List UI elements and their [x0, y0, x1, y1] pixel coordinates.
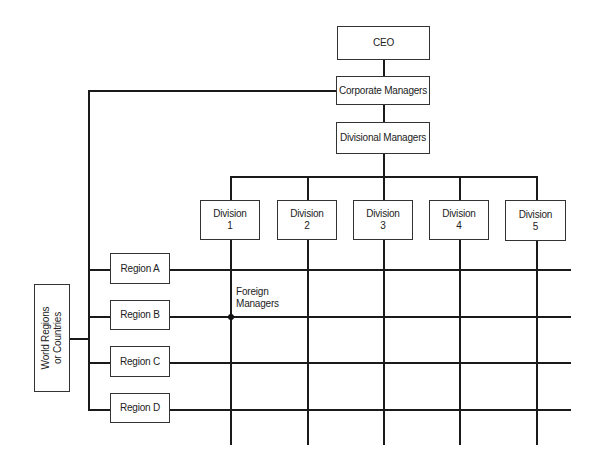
ceo-label: CEO — [373, 37, 394, 49]
corporate-regions-connector — [88, 90, 336, 92]
region-c-label: Region C — [120, 356, 160, 368]
divisional-managers-label: Divisional Managers — [340, 132, 426, 144]
division-5-drop — [536, 176, 538, 200]
division-2-number: 2 — [304, 220, 309, 232]
region-c-row — [170, 362, 571, 364]
division-2-box: Division 2 — [277, 200, 337, 240]
division-4-drop — [459, 176, 461, 200]
division-3-label: Division — [366, 208, 399, 220]
division-4-box: Division 4 — [429, 200, 489, 240]
division-2-label: Division — [290, 208, 323, 220]
region-d-box: Region D — [110, 393, 170, 423]
division-5-number: 5 — [533, 221, 538, 233]
division-1-column — [230, 240, 232, 445]
foreign-managers-annotation: Foreign Managers — [236, 286, 279, 310]
division-4-number: 4 — [456, 220, 461, 232]
corporate-managers-box: Corporate Managers — [336, 76, 430, 105]
region-a-stub — [88, 269, 110, 271]
region-b-stub — [88, 316, 110, 318]
division-1-number: 1 — [227, 220, 232, 232]
world-regions-line2: or Countries — [52, 307, 64, 370]
foreign-managers-node — [228, 314, 234, 320]
division-1-box: Division 1 — [200, 200, 260, 240]
world-regions-line1: World Regions — [40, 307, 52, 370]
corporate-divisional-connector — [383, 105, 385, 122]
division-5-column — [536, 240, 538, 445]
region-a-label: Region A — [121, 263, 160, 275]
divisional-managers-box: Divisional Managers — [336, 122, 430, 154]
division-3-number: 3 — [380, 220, 385, 232]
ceo-box: CEO — [337, 26, 430, 60]
world-connector — [70, 338, 88, 340]
region-d-stub — [88, 409, 110, 411]
foreign-label: Foreign — [236, 286, 279, 298]
world-regions-box: World Regions or Countries — [34, 284, 70, 392]
region-b-label: Region B — [120, 309, 160, 321]
region-c-box: Region C — [110, 346, 170, 377]
division-1-label: Division — [213, 208, 246, 220]
region-c-stub — [88, 362, 110, 364]
division-4-label: Division — [442, 208, 475, 220]
division-2-drop — [307, 176, 309, 200]
division-1-drop — [230, 176, 232, 200]
region-d-row — [170, 409, 571, 411]
division-3-drop — [383, 176, 385, 200]
world-regions-label: World Regions or Countries — [40, 307, 64, 370]
region-b-box: Region B — [110, 300, 170, 330]
region-d-label: Region D — [120, 402, 160, 414]
corporate-managers-label: Corporate Managers — [339, 85, 427, 97]
division-3-box: Division 3 — [353, 200, 413, 240]
region-a-row — [170, 269, 571, 271]
region-a-box: Region A — [110, 253, 170, 284]
division-3-column — [383, 240, 385, 445]
ceo-corporate-connector — [383, 60, 385, 76]
division-5-label: Division — [519, 209, 552, 221]
division-2-column — [307, 240, 309, 445]
divisional-bus-connector — [383, 154, 385, 176]
managers-label: Managers — [236, 298, 279, 310]
division-5-box: Division 5 — [505, 200, 566, 241]
division-4-column — [459, 240, 461, 445]
